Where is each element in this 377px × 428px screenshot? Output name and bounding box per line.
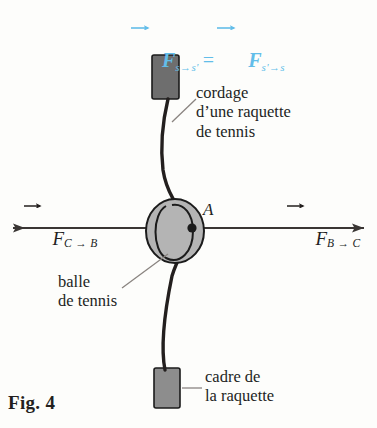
- formula-operator: =: [199, 49, 218, 71]
- leader-line-ball: [122, 254, 168, 288]
- force-left-subscript: C → B: [64, 238, 97, 250]
- racket-frame-bottom: [154, 368, 180, 408]
- figure-caption: Fig. 4: [8, 392, 55, 414]
- force-right-symbol-group: F: [287, 205, 327, 250]
- figure-canvas: Fs→s'= Fs'→s FC → B FB → C A cordage d’u…: [0, 0, 377, 428]
- vector-arrow-icon: [217, 22, 236, 30]
- force-label-left: FC → B: [5, 183, 98, 274]
- force-left-symbol-group: F: [24, 205, 64, 250]
- formula-right-force: F: [218, 26, 261, 73]
- force-right-subscript: B → C: [327, 238, 360, 250]
- force-left-symbol: F: [53, 228, 65, 249]
- vector-arrow-icon: [287, 200, 305, 208]
- formula-right-symbol: F: [248, 49, 261, 71]
- vector-arrow-icon: [131, 22, 150, 30]
- formula-left-symbol: F: [162, 49, 175, 71]
- vector-arrow-icon: [24, 200, 42, 208]
- formula-left-force: F: [132, 26, 175, 73]
- contact-point-dot: [187, 223, 196, 232]
- annotation-frame: cadre de la raquette: [205, 367, 274, 406]
- point-label-a: A: [203, 200, 213, 220]
- annotation-string: cordage d’une raquette de tennis: [196, 83, 291, 141]
- force-label-right: FB → C: [268, 183, 361, 274]
- formula-right-subscript: s'→s: [261, 60, 285, 72]
- force-right-symbol: F: [316, 228, 328, 249]
- leader-line-string: [172, 99, 196, 122]
- formula-left-subscript: s→s': [175, 60, 199, 72]
- annotation-ball: balle de tennis: [58, 272, 117, 311]
